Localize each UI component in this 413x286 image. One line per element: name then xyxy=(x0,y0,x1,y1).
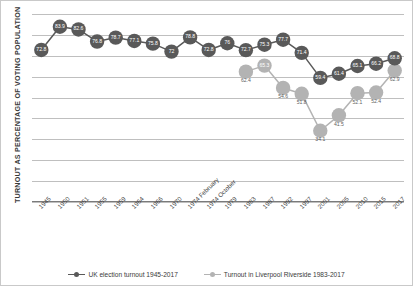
legend-label: UK election turnout 1945-2017 xyxy=(88,271,177,278)
data-point-marker xyxy=(127,34,141,48)
data-point-marker xyxy=(220,36,234,50)
legend-item[interactable]: UK election turnout 1945-2017 xyxy=(68,271,177,278)
data-point-marker xyxy=(276,81,290,95)
legend-swatch-icon xyxy=(204,271,221,278)
data-point-marker xyxy=(34,43,48,57)
data-point-marker xyxy=(239,43,253,57)
chart-legend: UK election turnout 1945-2017Turnout in … xyxy=(1,271,412,278)
data-point-marker xyxy=(146,36,160,50)
data-point-marker xyxy=(109,30,123,44)
data-point-marker xyxy=(295,87,309,101)
data-point-marker xyxy=(313,124,327,138)
data-point-marker xyxy=(53,20,67,34)
data-point-marker xyxy=(164,44,178,58)
chart-container: TURNOUT AS PERCENTAGE OF VOTING POPULATI… xyxy=(0,0,413,286)
data-point-marker xyxy=(388,51,402,65)
data-point-marker xyxy=(257,58,271,72)
x-axis-tick-labels: 194519501951195519591964196619701974 Feb… xyxy=(32,202,404,258)
data-point-marker xyxy=(90,34,104,48)
data-point-marker xyxy=(183,30,197,44)
legend-item[interactable]: Turnout in Liverpool Riverside 1983-2017 xyxy=(204,271,345,278)
data-point-marker xyxy=(332,67,346,81)
plot-area: 72.883.982.676.878.777.175.87278.872.876… xyxy=(32,14,404,202)
data-point-marker xyxy=(239,64,253,78)
data-point-marker xyxy=(202,43,216,57)
legend-swatch-icon xyxy=(68,271,85,278)
data-point-marker xyxy=(313,71,327,85)
data-point-marker xyxy=(332,108,346,122)
y-axis-title: TURNOUT AS PERCENTAGE OF VOTING POPULATI… xyxy=(14,13,22,203)
data-point-marker xyxy=(295,46,309,60)
legend-label: Turnout in Liverpool Riverside 1983-2017 xyxy=(224,271,345,278)
data-point-marker xyxy=(257,38,271,52)
series-layer xyxy=(32,14,404,202)
data-point-marker xyxy=(350,59,364,73)
data-point-marker xyxy=(369,85,383,99)
data-point-marker xyxy=(350,86,364,100)
data-point-marker xyxy=(276,32,290,46)
data-point-marker xyxy=(369,57,383,71)
data-point-marker xyxy=(388,63,402,77)
data-point-marker xyxy=(71,22,85,36)
